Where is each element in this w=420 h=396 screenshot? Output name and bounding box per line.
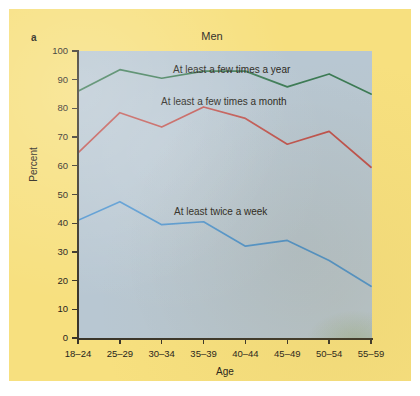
y-tick-label: 40 [42,218,68,228]
series-label-at-least-twice-a-week: At least twice a week [174,207,267,217]
figure-card: a Men 0102030405060708090100 18–2425–293… [9,9,411,381]
y-tick [72,194,77,195]
y-axis-title: Percent [28,125,39,205]
series-canvas [78,51,372,338]
y-tick-label: 0 [42,333,68,343]
chart-title-text: Men [201,30,222,42]
x-tick [203,338,204,344]
y-tick [72,280,77,281]
series-line-at-least-a-few-times-a-month [78,107,371,167]
series-label-at-least-a-few-times-a-month: At least a few times a month [161,97,287,107]
x-tick-label: 55–59 [345,349,397,359]
y-tick [72,337,77,338]
y-tick [72,251,77,252]
y-tick-label: 30 [42,247,68,257]
y-tick [72,79,77,80]
chart-title: Men [9,30,411,42]
x-tick [287,338,288,344]
x-tick [328,338,329,344]
y-tick [72,309,77,310]
y-tick [72,108,77,109]
x-tick [77,338,78,344]
y-axis-line [77,50,79,339]
x-tick [119,338,120,344]
y-tick-label: 50 [42,190,68,200]
y-tick-label: 90 [42,75,68,85]
x-axis-title: Age [78,366,372,377]
figure-root: a Men 0102030405060708090100 18–2425–293… [0,0,420,396]
y-tick-label: 70 [42,132,68,142]
y-tick [72,165,77,166]
y-tick [72,50,77,51]
series-label-at-least-a-few-times-a-year: At least a few times a year [173,65,290,75]
y-tick [72,136,77,137]
y-tick-label: 100 [42,46,68,56]
y-tick-label: 80 [42,103,68,113]
y-tick-label: 10 [42,304,68,314]
y-tick-label: 60 [42,161,68,171]
x-tick [245,338,246,344]
y-tick-label: 20 [42,276,68,286]
x-tick [370,338,371,344]
x-tick [161,338,162,344]
plot-area [78,51,372,338]
y-tick [72,223,77,224]
